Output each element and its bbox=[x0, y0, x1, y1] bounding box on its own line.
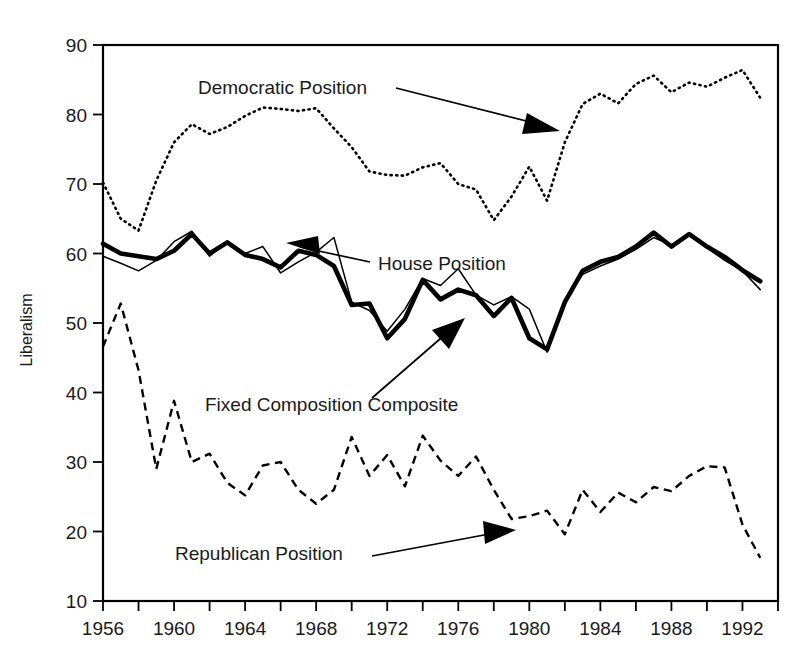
arrow-icon-composite bbox=[432, 318, 465, 349]
x-tick-label: 1968 bbox=[295, 618, 337, 639]
y-axis-tick-labels: 102030405060708090 bbox=[66, 35, 87, 612]
chart-figure: 102030405060708090 195619601964196819721… bbox=[0, 0, 810, 671]
annotation-label-composite: Fixed Composition Composite bbox=[205, 394, 458, 415]
arrow-icon-democratic bbox=[522, 113, 560, 134]
annotation-leader-republican bbox=[372, 532, 500, 556]
y-tick-label: 10 bbox=[66, 591, 87, 612]
plot-frame bbox=[103, 45, 778, 601]
y-tick-label: 30 bbox=[66, 452, 87, 473]
x-tick-label: 1960 bbox=[153, 618, 195, 639]
x-tick-label: 1972 bbox=[366, 618, 408, 639]
series-fixed-composition-composite bbox=[103, 233, 760, 350]
x-tick-label: 1980 bbox=[508, 618, 550, 639]
x-tick-label: 1976 bbox=[437, 618, 479, 639]
y-tick-label: 80 bbox=[66, 105, 87, 126]
x-tick-label: 1964 bbox=[224, 618, 267, 639]
series-republican-position bbox=[103, 304, 760, 558]
arrow-icon-republican bbox=[483, 521, 516, 544]
line-chart: 102030405060708090 195619601964196819721… bbox=[0, 0, 810, 671]
x-tick-label: 1992 bbox=[721, 618, 763, 639]
x-tick-label: 1984 bbox=[579, 618, 622, 639]
y-tick-label: 60 bbox=[66, 244, 87, 265]
y-tick-label: 70 bbox=[66, 174, 87, 195]
annotation-label-republican: Republican Position bbox=[175, 543, 343, 564]
x-tick-label: 1956 bbox=[82, 618, 124, 639]
y-axis-title: Liberalism bbox=[18, 294, 35, 367]
annotation-leader-composite bbox=[372, 332, 448, 398]
x-axis-ticks bbox=[103, 601, 778, 611]
annotation-label-democratic: Democratic Position bbox=[198, 77, 367, 98]
y-tick-label: 90 bbox=[66, 35, 87, 56]
annotation-leader-democratic bbox=[396, 88, 546, 126]
annotation-label-house: House Position bbox=[378, 253, 506, 274]
x-axis-tick-labels: 1956196019641968197219761980198419881992 bbox=[82, 618, 764, 639]
y-tick-label: 50 bbox=[66, 313, 87, 334]
y-tick-label: 20 bbox=[66, 522, 87, 543]
y-tick-label: 40 bbox=[66, 383, 87, 404]
y-axis-ticks bbox=[93, 45, 103, 601]
x-tick-label: 1988 bbox=[650, 618, 692, 639]
